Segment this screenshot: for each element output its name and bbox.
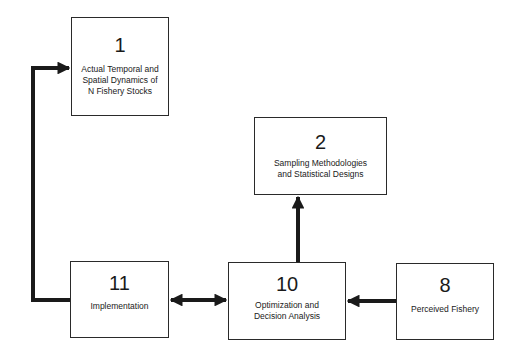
node-8-label-line: Perceived Fishery [397,304,493,315]
edge-11-to-1 [33,68,70,300]
node-2-label-line: Sampling Methodologies [255,158,386,169]
node-10: 10 Optimization and Decision Analysis [228,262,346,340]
node-1-number: 1 [72,34,168,56]
node-8: 8 Perceived Fishery [396,263,494,340]
node-8-number: 8 [397,274,493,296]
node-10-number: 10 [229,273,345,295]
node-10-label-line: Decision Analysis [229,311,345,322]
node-10-label-line: Optimization and [229,300,345,311]
node-2: 2 Sampling Methodologies and Statistical… [254,117,387,195]
node-11-number: 11 [71,272,168,294]
node-1-label-line: N Fishery Stocks [72,86,168,97]
node-2-label-line: and Statistical Designs [255,169,386,180]
node-1-label-line: Spatial Dynamics of [72,75,168,86]
node-1-label-line: Actual Temporal and [72,64,168,75]
node-11: 11 Implementation [70,261,169,338]
node-1: 1 Actual Temporal and Spatial Dynamics o… [71,17,169,116]
node-11-label-line: Implementation [71,301,168,312]
node-2-number: 2 [255,131,386,153]
